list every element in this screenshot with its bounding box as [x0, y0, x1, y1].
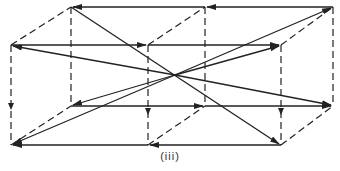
- diagonal-center-ftr: [175, 46, 279, 75]
- diagonal-center-bbl: [73, 75, 175, 105]
- depth-edge-bottom-left: [11, 106, 71, 145]
- two-cube-vector-diagram: [0, 0, 340, 171]
- down-arrow-front-mid: [145, 108, 151, 115]
- depth-edge-top-left: [11, 7, 71, 45]
- diagonal-center-fbl: [13, 75, 175, 144]
- diagonal-center-bbr: [175, 75, 331, 105]
- down-arrow-front-left: [8, 103, 14, 110]
- diagonal-center-ftl: [13, 46, 175, 75]
- figure-caption: (iii): [150, 150, 190, 162]
- diagonal-center-btr: [175, 8, 331, 75]
- depth-edge-bottom-mid: [148, 106, 205, 145]
- depth-edge-bottom-right: [281, 106, 333, 145]
- down-arrow-front-right: [278, 108, 284, 115]
- depth-edge-top-mid: [148, 7, 205, 45]
